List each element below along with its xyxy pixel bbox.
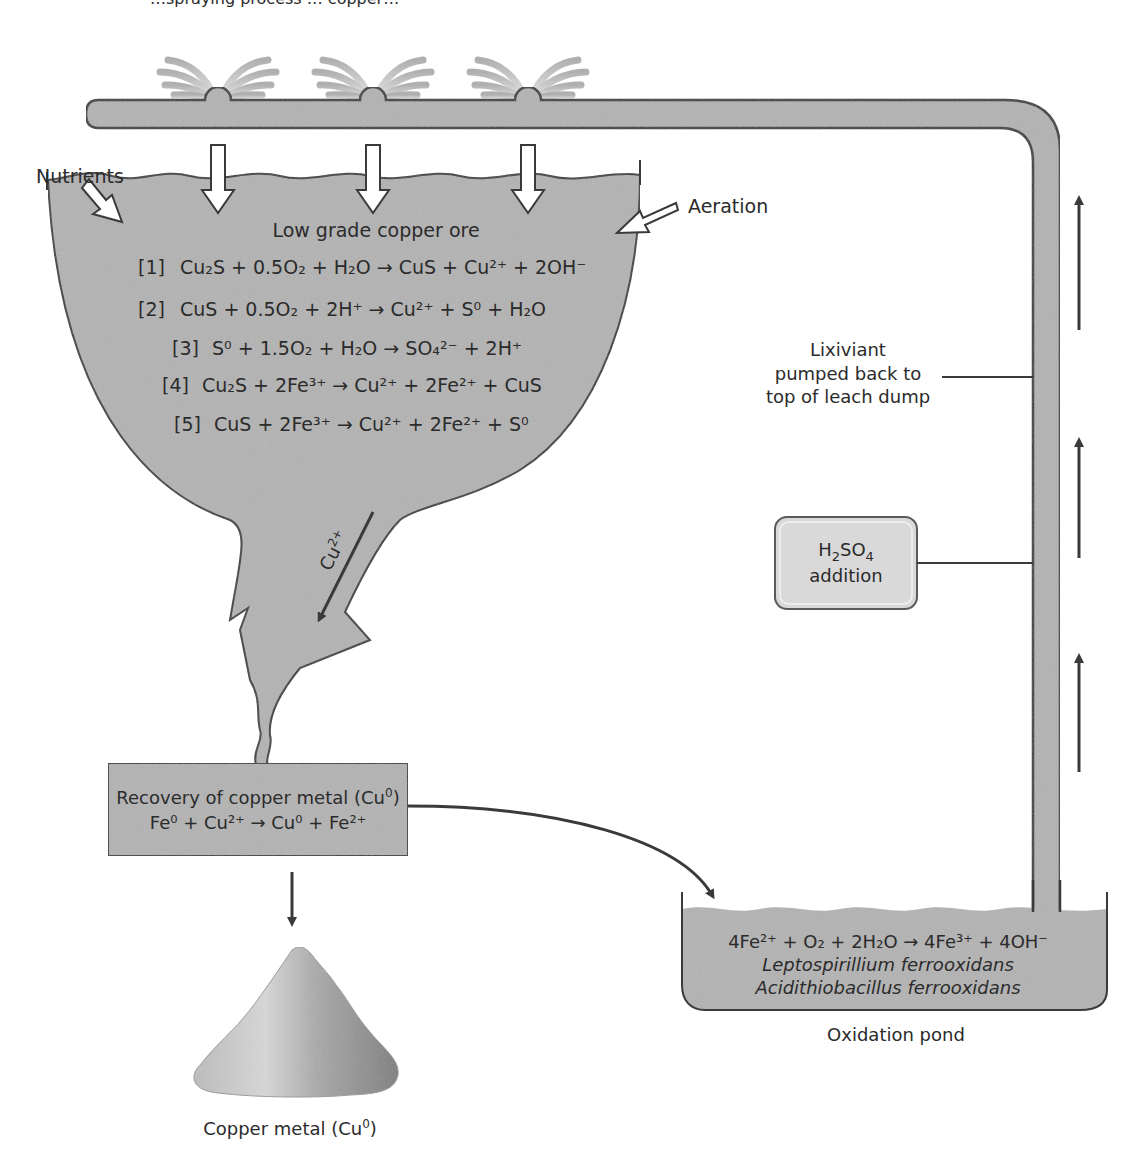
reaction-5: CuS + 2Fe³⁺ → Cu²⁺ + 2Fe²⁺ + S⁰	[214, 413, 529, 435]
to-pond-arrow-icon	[408, 806, 712, 895]
reaction-5-id: [5]	[174, 413, 201, 435]
organism-1: Leptospirillium ferrooxidans	[762, 954, 1014, 975]
lixiviant-label: Lixiviant pumped back to top of leach du…	[766, 339, 1033, 407]
reaction-1-id: [1]	[138, 256, 165, 278]
reaction-3: S⁰ + 1.5O₂ + H₂O → SO₄²⁻ + 2H⁺	[212, 337, 522, 359]
aeration-label: Aeration	[688, 195, 768, 217]
copper-metal-label: Copper metal (Cu0)	[203, 1117, 377, 1139]
reaction-4: Cu₂S + 2Fe³⁺ → Cu²⁺ + 2Fe²⁺ + CuS	[202, 374, 542, 396]
reaction-4-id: [4]	[162, 374, 189, 396]
pond-reaction: 4Fe²⁺ + O₂ + 2H₂O → 4Fe³⁺ + 4OH⁻	[728, 931, 1048, 952]
ore-title: Low grade copper ore	[272, 219, 479, 241]
svg-text:pumped back to: pumped back to	[775, 363, 922, 384]
organism-2: Acidithiobacillus ferrooxidans	[754, 977, 1020, 998]
recovery-box: Recovery of copper metal (Cu0) Fe⁰ + Cu²…	[108, 763, 408, 856]
reaction-2-id: [2]	[138, 298, 165, 320]
copper-pile-icon	[194, 947, 398, 1097]
bioleaching-diagram: …spraying process … copper… Nutrients	[0, 0, 1140, 1165]
acid-addition-box: H2SO4 addition	[775, 517, 1033, 609]
reaction-3-id: [3]	[172, 337, 199, 359]
acid-addition-label: addition	[809, 565, 882, 586]
recovery-title: Recovery of copper metal (Cu0)	[116, 786, 399, 808]
recovery-reaction: Fe⁰ + Cu²⁺ → Cu⁰ + Fe²⁺	[150, 812, 366, 833]
oxidation-pond-label: Oxidation pond	[827, 1024, 965, 1045]
reaction-1: Cu₂S + 0.5O₂ + H₂O → CuS + Cu²⁺ + 2OH⁻	[180, 256, 586, 278]
svg-text:top of leach dump: top of leach dump	[766, 386, 930, 407]
nutrients-label: Nutrients	[36, 165, 124, 187]
caption-fragment: …spraying process … copper…	[150, 0, 399, 8]
svg-text:Lixiviant: Lixiviant	[810, 339, 886, 360]
reaction-2: CuS + 0.5O₂ + 2H⁺ → Cu²⁺ + S⁰ + H₂O	[180, 298, 546, 320]
